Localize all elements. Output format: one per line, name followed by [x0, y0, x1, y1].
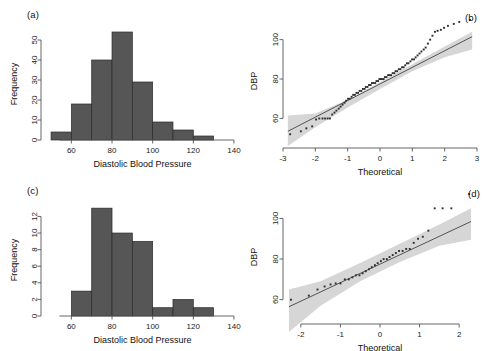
qq-point [371, 82, 373, 84]
qq-point [386, 76, 388, 78]
qq-point [330, 284, 332, 286]
qq-point [376, 80, 378, 82]
y-tick-label: 10 [30, 115, 39, 124]
qq-point [429, 39, 431, 41]
confidence-band [289, 208, 471, 332]
qq-point [427, 43, 429, 45]
qq-point [362, 88, 364, 90]
qq-point [345, 100, 347, 102]
y-tick-label: 10 [30, 228, 39, 237]
y-tick-label: 40 [30, 55, 39, 64]
panel-d-tag: (d) [468, 188, 480, 199]
qq-point [403, 66, 405, 68]
qq-point [344, 278, 346, 280]
qq-point [458, 21, 460, 23]
qq-point [308, 295, 310, 297]
x-tick-label: -2 [297, 330, 305, 339]
qq-point [352, 94, 354, 96]
qq-point [409, 60, 411, 62]
qq-point [360, 90, 362, 92]
qq-point [338, 108, 340, 110]
qq-point [415, 56, 417, 58]
reference-line [289, 221, 471, 306]
qq-point [370, 84, 372, 86]
qq-point [431, 35, 433, 37]
y-axis-title: DBP [249, 248, 259, 267]
histogram-bar [153, 308, 173, 316]
x-tick-label: 140 [227, 146, 241, 155]
x-tick-label: 3 [475, 154, 480, 163]
qq-point [383, 258, 385, 260]
x-tick-label: 100 [146, 146, 160, 155]
qq-point [329, 118, 331, 120]
qq-point [354, 94, 356, 96]
histogram-bars [51, 32, 214, 140]
qq-point [368, 268, 370, 270]
qq-point [427, 230, 429, 232]
y-tick-label: 6 [30, 263, 39, 268]
qq-point [331, 114, 333, 116]
y-tick-label: 100 [271, 32, 280, 46]
qq-point [374, 82, 376, 84]
x-tick-label: 2 [457, 330, 462, 339]
qq-point [351, 96, 353, 98]
panel-d-plot: -2-10126080100TheoreticalDBP [249, 176, 497, 351]
x-tick-label: 80 [108, 322, 117, 331]
qq-point [377, 262, 379, 264]
qq-point [335, 282, 337, 284]
qq-point [409, 248, 411, 250]
qq-point [453, 23, 455, 25]
qq-point [355, 274, 357, 276]
qq-point [365, 86, 367, 88]
qq-point [368, 84, 370, 86]
x-axis-title: Diastolic Blood Pressure [93, 335, 191, 345]
x-tick-label: 0 [378, 330, 383, 339]
qq-point [399, 68, 401, 70]
qq-point [365, 270, 367, 272]
panel-c: (c) 6080100120140024681012Diastolic Bloo… [0, 176, 248, 351]
histogram-bar [193, 136, 213, 140]
panel-c-plot: 6080100120140024681012Diastolic Blood Pr… [0, 176, 248, 351]
qq-point [347, 98, 349, 100]
qq-point [315, 119, 317, 121]
qq-point [362, 272, 364, 274]
y-tick-label: 8 [30, 247, 39, 252]
qq-point [324, 286, 326, 288]
y-tick-label: 2 [30, 297, 39, 302]
y-tick-label: 50 [30, 35, 39, 44]
qq-point [396, 70, 398, 72]
qq-point [355, 92, 357, 94]
panel-a-tag: (a) [27, 9, 39, 20]
qq-point [340, 106, 342, 108]
qq-point [404, 64, 406, 66]
qq-point [348, 278, 350, 280]
qq-point [401, 66, 403, 68]
qq-point [377, 80, 379, 82]
histogram-bar [92, 60, 112, 140]
histogram-bar [112, 32, 132, 140]
qq-point [398, 250, 400, 252]
qq-point [405, 248, 407, 250]
qq-point [344, 102, 346, 104]
qq-point [434, 31, 436, 33]
qq-point [359, 90, 361, 92]
y-axis-title: Frequency [9, 62, 19, 105]
qq-point [290, 299, 292, 301]
histogram-bar [193, 308, 213, 316]
qq-point [351, 276, 353, 278]
qq-point [327, 118, 329, 120]
x-tick-label: 60 [67, 146, 76, 155]
panel-b-plot: -3-2-101236080100TheoreticalDBP [249, 0, 497, 175]
qq-point [381, 78, 383, 80]
histogram-bar [132, 241, 152, 316]
qq-point [411, 58, 413, 60]
y-tick-label: 60 [271, 295, 280, 304]
qq-point [390, 74, 392, 76]
qq-point [417, 54, 419, 56]
qq-point [434, 207, 436, 209]
qq-point [322, 118, 324, 120]
qq-point [440, 29, 442, 31]
x-tick-label: 60 [67, 322, 76, 331]
qq-point [402, 250, 404, 252]
qq-point [324, 118, 326, 120]
